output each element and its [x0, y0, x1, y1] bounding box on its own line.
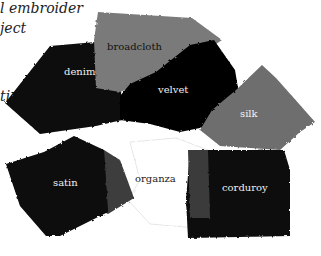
- label-broadcloth: broadcloth: [107, 41, 162, 52]
- corduroy-overlap-shade: [188, 150, 210, 218]
- label-velvet: velvet: [157, 84, 188, 95]
- label-corduroy: corduroy: [222, 182, 268, 193]
- label-silk: silk: [240, 108, 259, 119]
- label-denim: denim: [64, 66, 96, 77]
- fabric-swatches-photo: broadcloth denim velvet silk satin organ…: [0, 0, 321, 256]
- label-satin: satin: [53, 177, 78, 188]
- label-organza: organza: [135, 173, 176, 184]
